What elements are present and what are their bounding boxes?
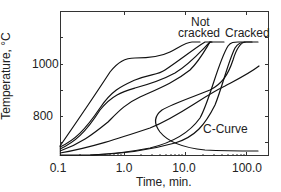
x-tick-label: 10.0: [172, 162, 195, 174]
x-axis-label: Time, min.: [136, 176, 192, 188]
y-axis-label: Temperature, °C: [0, 32, 13, 120]
curve-not-cracked-1: [60, 42, 200, 146]
curve-long-cooling: [60, 66, 259, 153]
curves: [60, 42, 259, 155]
x-tick-label: 1.0: [116, 162, 133, 174]
annotation-c-curve: C-Curve: [203, 123, 248, 135]
y-tick-label: 800: [33, 110, 53, 122]
annotation-not-cracked: cracked: [178, 27, 220, 39]
x-tick-label: 100.0: [232, 162, 262, 174]
x-tick-label: 0.1: [50, 162, 67, 174]
y-tick-label: 1000: [32, 58, 59, 70]
annotation-cracked: Cracked: [225, 27, 270, 39]
